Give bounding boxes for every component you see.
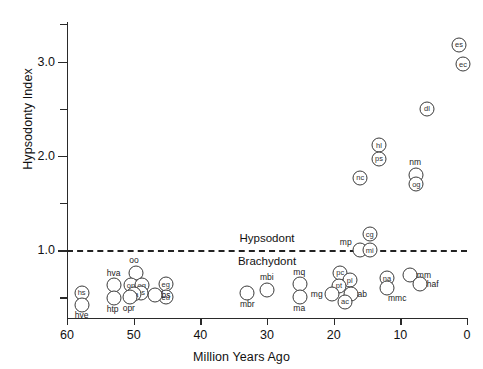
point-label-nm: nm — [409, 158, 421, 167]
x-tick — [467, 318, 468, 325]
point-label-ab: ab — [358, 290, 367, 299]
point-label-mbi: mbi — [260, 273, 274, 282]
point-label-mq: mq — [293, 268, 305, 277]
y-axis-title: Hypsodonty Index — [21, 39, 35, 199]
point-label-haf: haf — [427, 280, 439, 289]
x-tick — [267, 318, 268, 325]
x-tick — [334, 318, 335, 325]
point-label-bs: bs — [162, 291, 171, 300]
y-axis-line — [67, 22, 68, 318]
y-tick — [60, 109, 67, 110]
y-tick — [58, 250, 67, 251]
data-point-mbi — [260, 282, 275, 297]
x-tick — [200, 318, 201, 325]
point-label-ac: ac — [341, 298, 349, 306]
point-label-mbr: mbr — [240, 300, 255, 309]
y-tick — [60, 24, 67, 25]
x-tick-label: 50 — [127, 328, 141, 342]
point-label-nc: nc — [356, 174, 364, 182]
x-tick-label: 40 — [193, 328, 207, 342]
x-axis-title: Million Years Ago — [0, 350, 483, 364]
point-label-mmc: mmc — [388, 294, 406, 303]
point-label-es: es — [455, 41, 463, 49]
x-tick-label: 20 — [327, 328, 341, 342]
y-tick — [58, 62, 67, 63]
point-label-ma: ma — [293, 304, 305, 313]
y-tick — [60, 203, 67, 204]
data-point-mi: mi — [362, 243, 377, 258]
data-point-ec: ec — [456, 57, 471, 72]
brachydont-zone-label: Brachydont — [238, 255, 296, 267]
point-label-hva: hva — [107, 269, 121, 278]
point-label-pl: pl — [347, 277, 353, 285]
x-tick-label: 60 — [60, 328, 74, 342]
point-label-mg: mg — [311, 290, 323, 299]
y-tick-label: 1.0 — [38, 243, 55, 257]
y-tick — [60, 297, 67, 298]
point-label-mp: mp — [340, 238, 352, 247]
x-tick — [67, 318, 68, 325]
data-point-ac: ac — [338, 294, 353, 309]
point-label-eg: eg — [161, 280, 169, 288]
x-tick-label: 0 — [464, 328, 471, 342]
data-point-ps: ps — [372, 151, 387, 166]
data-point-bs — [148, 288, 163, 303]
point-label-opr: opr — [123, 304, 135, 313]
point-label-dl: dl — [424, 105, 430, 113]
data-point-dl: dl — [420, 101, 435, 116]
point-label-ps: ps — [375, 155, 383, 163]
plot-area: 1.02.03.0 6050403020100 Hypsodont Brachy… — [67, 22, 467, 318]
data-point-og: og — [409, 177, 424, 192]
point-label-hl: hl — [376, 142, 382, 150]
point-label-oo: oo — [129, 256, 138, 265]
data-point-cg: cg — [362, 227, 377, 242]
point-label-cg: cg — [366, 230, 374, 238]
point-label-hve: hve — [75, 311, 89, 320]
point-label-ec: ec — [459, 61, 467, 69]
data-point-es: es — [452, 37, 467, 52]
point-label-htp: htp — [107, 305, 119, 314]
x-tick-label: 10 — [393, 328, 407, 342]
y-tick — [58, 156, 67, 157]
hypsodonty-scatter-figure: Hypsodonty Index 1.02.03.0 6050403020100… — [0, 0, 483, 369]
hypsodont-zone-label: Hypsodont — [240, 232, 295, 244]
hypsodonty-threshold-line — [67, 250, 467, 252]
data-point-haf — [413, 277, 428, 292]
data-point-nc: nc — [353, 170, 368, 185]
x-tick-label: 30 — [260, 328, 274, 342]
point-label-mi: mi — [366, 246, 374, 254]
y-tick-label: 3.0 — [38, 55, 55, 69]
point-label-hs: hs — [78, 289, 86, 297]
point-label-og: og — [412, 180, 420, 188]
x-tick — [134, 318, 135, 325]
y-tick-label: 2.0 — [38, 149, 55, 163]
x-tick — [400, 318, 401, 325]
